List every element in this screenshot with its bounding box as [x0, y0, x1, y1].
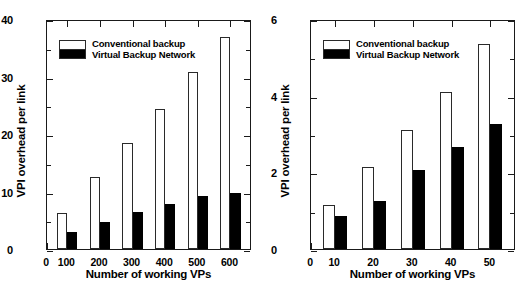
bar-conventional-right-20 [362, 167, 374, 249]
bar-conventional-left-200 [90, 177, 100, 249]
y-tick-left-30 [47, 79, 53, 80]
plot-area-right: Conventional backup Virtual Backup Netwo… [310, 20, 515, 250]
x-tick-top-right-50 [490, 21, 491, 27]
x-axis-title-right: Number of working VPs [310, 268, 515, 280]
legend-swatch-group-left [59, 40, 86, 59]
x-tick-top-left-200 [100, 21, 101, 27]
y-tick-label-left-4: 40 [0, 14, 13, 26]
y-tick-right-right-1 [510, 213, 514, 214]
y-tick-label-right-3: 6 [237, 14, 277, 26]
y-tick-left-0 [47, 251, 53, 252]
y-tick-label-left-0: 0 [0, 244, 13, 256]
y-tick-right-right-3 [510, 136, 514, 137]
y-tick-label-right-1: 2 [237, 167, 277, 179]
y-tick-left-40 [47, 21, 53, 22]
bar-conventional-left-500 [188, 72, 198, 249]
y-tick-right-5 [311, 59, 315, 60]
y-tick-label-left-2: 20 [0, 129, 13, 141]
bar-vbn-right-20 [374, 201, 386, 249]
bar-conventional-right-50 [478, 44, 490, 249]
legend-label-vbn-left: Virtual Backup Network [92, 49, 195, 60]
y-tick-right-left-20 [244, 136, 250, 137]
y-tick-right-0 [311, 251, 317, 252]
bar-conventional-left-600 [220, 37, 230, 249]
bar-conventional-left-300 [122, 143, 132, 249]
chart-panel-left: VPI overhead per link 0 10 20 30 40 0 10… [0, 0, 264, 294]
y-tick-right-6 [311, 21, 317, 22]
y-tick-label-left-1: 10 [0, 187, 13, 199]
y-tick-right-1 [311, 213, 315, 214]
legend-swatch-conventional-right [324, 41, 349, 50]
bar-conventional-right-10 [323, 205, 335, 249]
legend-swatch-conventional-left [60, 41, 85, 50]
bar-vbn-right-10 [335, 216, 347, 249]
legend-label-conventional-left: Conventional backup [92, 38, 195, 49]
bar-vbn-left-400 [165, 204, 175, 249]
y-tick-label-left-3: 30 [0, 72, 13, 84]
bar-conventional-left-100 [57, 213, 67, 249]
y-tick-right-left-5 [246, 222, 250, 223]
y-tick-right-2 [311, 174, 317, 175]
y-tick-right-3 [311, 136, 315, 137]
plot-area-left: Conventional backup Virtual Backup Netwo… [46, 20, 251, 250]
x-tick-top-left-600 [230, 21, 231, 27]
bar-conventional-right-30 [401, 130, 413, 249]
bar-conventional-right-40 [440, 92, 452, 249]
y-tick-right-right-5 [510, 59, 514, 60]
bar-vbn-right-50 [490, 124, 502, 249]
y-tick-right-left-35 [246, 50, 250, 51]
bar-vbn-right-30 [413, 170, 425, 249]
bar-vbn-right-40 [452, 147, 464, 249]
legend-right: Conventional backup Virtual Backup Netwo… [323, 38, 459, 60]
y-tick-right-left-15 [246, 165, 250, 166]
x-tick-left-0 [47, 243, 48, 249]
x-tick-top-right-40 [452, 21, 453, 27]
x-tick-top-right-10 [335, 21, 336, 27]
y-tick-left-20 [47, 136, 53, 137]
y-axis-title-right: VPI overhead per link [279, 61, 291, 221]
y-axis-title-left: VPI overhead per link [15, 61, 27, 221]
x-tick-top-left-500 [198, 21, 199, 27]
y-tick-left-15 [47, 165, 51, 166]
y-tick-right-right-4 [508, 98, 514, 99]
bar-vbn-left-100 [67, 232, 77, 249]
y-tick-label-right-0: 0 [237, 244, 277, 256]
x-tick-top-right-30 [413, 21, 414, 27]
legend-label-conventional-right: Conventional backup [356, 38, 459, 49]
legend-swatch-vbn-right [324, 50, 349, 58]
y-tick-right-right-2 [508, 174, 514, 175]
legend-label-vbn-right: Virtual Backup Network [356, 49, 459, 60]
x-tick-top-left-100 [67, 21, 68, 27]
bar-conventional-left-400 [155, 109, 165, 249]
y-tick-right-right-6 [508, 21, 514, 22]
bar-vbn-left-200 [100, 222, 110, 249]
figure-container: VPI overhead per link 0 10 20 30 40 0 10… [0, 0, 528, 294]
bar-vbn-left-500 [198, 196, 208, 249]
y-tick-right-4 [311, 98, 317, 99]
y-tick-left-35 [47, 50, 51, 51]
legend-swatch-group-right [323, 40, 350, 59]
x-tick-label-left-6: 600 [206, 256, 252, 268]
x-tick-label-right-5: 50 [466, 256, 512, 268]
y-tick-left-25 [47, 107, 51, 108]
bar-vbn-left-300 [133, 212, 143, 249]
x-tick-top-right-20 [374, 21, 375, 27]
y-tick-right-left-30 [244, 79, 250, 80]
y-tick-right-right-0 [508, 251, 514, 252]
y-tick-left-5 [47, 222, 51, 223]
legend-swatch-vbn-left [60, 50, 85, 58]
chart-panel-right: VPI overhead per link 0 2 4 6 0 10 20 30… [264, 0, 528, 294]
legend-left: Conventional backup Virtual Backup Netwo… [59, 38, 195, 60]
y-tick-left-10 [47, 194, 53, 195]
y-tick-right-left-25 [246, 107, 250, 108]
y-tick-label-right-2: 4 [237, 91, 277, 103]
x-tick-top-left-300 [133, 21, 134, 27]
y-tick-right-left-10 [244, 194, 250, 195]
x-tick-top-left-400 [165, 21, 166, 27]
x-axis-title-left: Number of working VPs [46, 268, 251, 280]
x-tick-right-0 [311, 243, 312, 249]
bar-vbn-left-600 [230, 193, 240, 249]
